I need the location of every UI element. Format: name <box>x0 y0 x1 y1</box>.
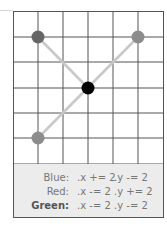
legend-label: Green: <box>31 199 69 213</box>
legend-x-op: .x -= 2 <box>77 199 111 213</box>
legend-label: Red: <box>47 185 69 199</box>
legend-x-op: .x += 2 <box>77 171 116 185</box>
legend-y-op: .y -= 2 <box>114 171 148 185</box>
legend-row-green: Green: .x -= 2 .y -= 2 <box>14 199 163 213</box>
grid <box>13 11 165 165</box>
legend-y-op: .y += 2 <box>114 185 153 199</box>
legend-row-red: Red: .x -= 2 .y += 2 <box>14 185 163 199</box>
legend-row-blue: Blue: .x += 2 .y -= 2 <box>14 171 163 185</box>
red-point <box>132 31 145 44</box>
legend-y-op: .y -= 2 <box>114 199 148 213</box>
green-point <box>32 132 45 145</box>
center-point <box>82 82 95 95</box>
blue-point <box>32 31 45 44</box>
legend-label: Blue: <box>44 171 70 185</box>
top-rule <box>0 10 13 11</box>
legend-x-op: .x -= 2 <box>77 185 111 199</box>
legend-panel: Blue: .x += 2 .y -= 2 Red: .x -= 2 .y +=… <box>13 164 164 218</box>
